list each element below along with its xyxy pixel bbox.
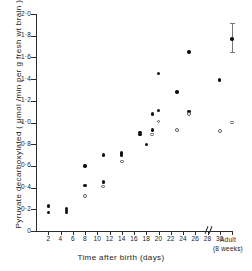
data-point-open bbox=[101, 185, 105, 189]
data-point-filled bbox=[65, 211, 68, 214]
data-point-open bbox=[218, 129, 222, 133]
data-point-filled bbox=[102, 180, 105, 183]
data-point-filled bbox=[157, 72, 160, 75]
data-point-filled bbox=[187, 50, 190, 53]
x-axis-title: Time after birth (days) bbox=[36, 253, 206, 262]
data-point-filled bbox=[138, 133, 141, 136]
data-point-open bbox=[230, 121, 234, 125]
adult-label-line1: Adult bbox=[206, 236, 250, 245]
data-point-filled bbox=[151, 128, 154, 131]
data-point-filled bbox=[218, 78, 221, 81]
y-axis-title: Pyruvate decarboxylated ( μmol /min per … bbox=[14, 1, 23, 229]
data-point-filled bbox=[102, 153, 105, 156]
data-point-open bbox=[120, 160, 124, 164]
data-point-filled bbox=[120, 153, 123, 156]
data-point-filled bbox=[145, 143, 148, 146]
data-point-open bbox=[175, 128, 179, 132]
figure-scatter-plot: 00·20·40·60·81·01·21·41·61·82·0 24681012… bbox=[0, 0, 252, 271]
data-point-filled bbox=[47, 211, 50, 214]
x-axis-adult-label: Adult (8 weeks) bbox=[206, 236, 250, 254]
error-bar-cap-bottom bbox=[230, 52, 235, 53]
plot-data-area bbox=[36, 14, 232, 231]
data-point-open bbox=[157, 120, 161, 124]
adult-label-line2: (8 weeks) bbox=[206, 245, 250, 254]
data-point-filled bbox=[230, 37, 233, 40]
data-point-filled bbox=[47, 204, 50, 207]
data-point-filled bbox=[83, 184, 86, 187]
data-point-open bbox=[150, 133, 154, 137]
data-point-filled bbox=[157, 109, 160, 112]
data-point-filled bbox=[83, 164, 86, 167]
data-point-open bbox=[187, 112, 191, 116]
data-point-open bbox=[83, 194, 87, 198]
x-axis-tick-adult bbox=[232, 231, 233, 235]
data-point-filled bbox=[175, 90, 178, 93]
data-point-filled bbox=[151, 112, 154, 115]
error-bar-cap-top bbox=[230, 23, 235, 24]
